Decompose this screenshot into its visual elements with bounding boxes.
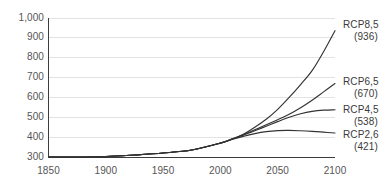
chart-plot-area	[0, 0, 390, 190]
rcp-concentration-chart: 3004005006007008009001,000 1850190019502…	[0, 0, 390, 190]
series-label-name: RCP6,5	[343, 76, 379, 87]
series-line-1	[49, 31, 336, 157]
x-tick-label: 2000	[209, 165, 232, 176]
y-tick-label: 1,000	[0, 12, 44, 23]
x-tick-label: 2100	[324, 165, 347, 176]
x-tick-label: 1950	[152, 165, 175, 176]
y-tick-label: 800	[0, 51, 44, 62]
y-tick-label: 600	[0, 91, 44, 102]
series-label-4: RCP2,6(421)	[343, 129, 379, 154]
series-label-name: RCP2,6	[343, 129, 379, 140]
series-line-4	[49, 130, 336, 157]
y-tick-label: 900	[0, 31, 44, 42]
series-label-value: (670)	[343, 88, 379, 101]
y-tick-label: 700	[0, 71, 44, 82]
x-tick-label: 1900	[94, 165, 117, 176]
series-label-1: RCP8,5(936)	[343, 19, 379, 44]
y-tick-label: 500	[0, 111, 44, 122]
series-label-2: RCP6,5(670)	[343, 76, 379, 101]
series-label-value: (936)	[343, 31, 379, 44]
gridlines	[49, 18, 336, 137]
series-label-name: RCP8,5	[343, 19, 379, 30]
axis-lines	[49, 18, 336, 157]
y-tick-label: 300	[0, 151, 44, 162]
x-tick-label: 1850	[37, 165, 60, 176]
series-label-value: (421)	[343, 141, 379, 154]
y-tick-label: 400	[0, 131, 44, 142]
x-tick-label: 2050	[266, 165, 289, 176]
series-label-3: RCP4,5(538)	[343, 104, 379, 129]
series-label-name: RCP4,5	[343, 104, 379, 115]
series-lines	[49, 31, 336, 157]
series-label-value: (538)	[343, 116, 379, 129]
